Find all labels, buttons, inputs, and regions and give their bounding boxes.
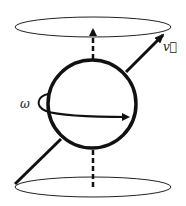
rotation-arrow xyxy=(39,94,128,117)
sphere xyxy=(48,60,136,148)
omega-label: ω xyxy=(20,97,30,111)
velocity-arrow xyxy=(126,35,163,72)
velocity-line-lower xyxy=(15,139,61,184)
spinning-sphere-diagram: v⃗ ω xyxy=(0,0,186,206)
velocity-label: v⃗ xyxy=(163,40,177,54)
